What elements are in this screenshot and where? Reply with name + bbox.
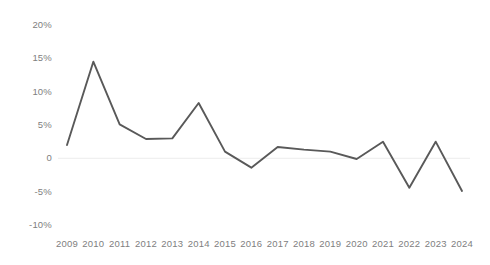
y-axis-tick-label: 5% bbox=[0, 120, 52, 130]
y-axis: 20%15%10%5%0-5%-10% bbox=[0, 0, 52, 265]
y-axis-tick-label: 15% bbox=[0, 53, 52, 63]
x-axis-tick-label: 2024 bbox=[442, 238, 482, 250]
y-axis-tick-label: -5% bbox=[0, 187, 52, 197]
y-axis-tick-label: 10% bbox=[0, 87, 52, 97]
y-axis-tick-label: -10% bbox=[0, 220, 52, 230]
x-axis: 2009201020112012201320142015201620172018… bbox=[0, 238, 490, 254]
line-chart: 20%15%10%5%0-5%-10% 20092010201120122013… bbox=[0, 0, 490, 265]
chart-plot-area bbox=[0, 0, 490, 265]
y-axis-tick-label: 20% bbox=[0, 20, 52, 30]
data-series-line bbox=[67, 62, 462, 191]
y-axis-tick-label: 0 bbox=[0, 153, 52, 163]
